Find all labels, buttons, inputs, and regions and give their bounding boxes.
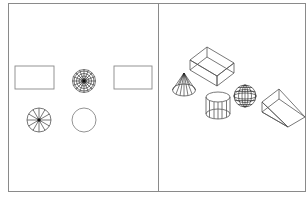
wedge-wireframe-icon xyxy=(262,89,305,127)
box-wireframe-icon xyxy=(190,47,234,86)
diagram-canvas xyxy=(0,0,308,209)
sphere-top-view-icon xyxy=(73,70,96,93)
rectangle-left-shape xyxy=(15,66,54,89)
right-panel xyxy=(173,47,306,127)
cone-top-view-icon xyxy=(27,108,51,132)
rectangle-right-shape xyxy=(114,66,152,89)
sphere-wireframe-icon xyxy=(234,85,256,107)
cylinder-top-view-icon xyxy=(72,108,96,132)
cone-wireframe-icon xyxy=(173,73,196,96)
cylinder-wireframe-icon xyxy=(206,92,230,119)
left-panel xyxy=(15,66,152,132)
